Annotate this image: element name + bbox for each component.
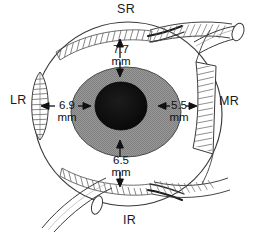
pupil: [95, 82, 147, 130]
sr-value: 7.7: [105, 44, 137, 56]
eye-diagram-svg: [0, 0, 256, 233]
lr-value: 6.9: [54, 100, 80, 112]
measurement-ir-distance: 6.5 mm: [105, 155, 137, 178]
muscle-label-sr: SR: [117, 3, 135, 16]
lr-unit: mm: [54, 112, 80, 124]
measurement-mr-distance: 5.5 mm: [166, 100, 192, 123]
eye-anatomy-diagram: SR LR MR IR 7.7 mm 6.9 mm 5.5 mm 6.5 mm: [0, 0, 256, 233]
sr-unit: mm: [105, 56, 137, 68]
ir-value: 6.5: [105, 155, 137, 167]
muscle-label-mr: MR: [219, 95, 239, 108]
ir-unit: mm: [105, 167, 137, 179]
mr-value: 5.5: [166, 100, 192, 112]
measurement-lr-distance: 6.9 mm: [54, 100, 80, 123]
muscle-label-ir: IR: [123, 214, 136, 227]
measurement-sr-distance: 7.7 mm: [105, 44, 137, 67]
muscle-label-lr: LR: [10, 94, 27, 107]
mr-unit: mm: [166, 112, 192, 124]
